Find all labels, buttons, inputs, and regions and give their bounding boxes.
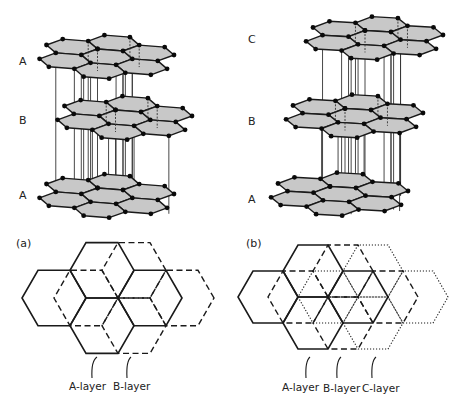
carbon-atom: [102, 172, 107, 177]
carbon-atom: [311, 190, 316, 195]
carbon-atom: [399, 202, 404, 207]
carbon-atom: [137, 43, 142, 48]
carbon-atom: [382, 43, 387, 48]
carbon-atom: [165, 205, 170, 210]
carbon-atom: [46, 203, 51, 208]
carbon-atom: [99, 135, 104, 140]
carbon-atom: [411, 103, 416, 108]
label-a-top-layer: A: [19, 56, 27, 67]
carbon-atom: [102, 33, 107, 38]
carbon-atom: [363, 193, 368, 198]
carbon-atom: [37, 56, 42, 61]
carbon-atom: [319, 126, 324, 131]
carbon-atom: [72, 205, 77, 210]
label-b-bottom-layer: A: [248, 194, 256, 205]
plan-a-layer: [22, 243, 182, 354]
diagram-canvas: [0, 0, 461, 410]
carbon-atom: [162, 184, 167, 189]
carbon-atom: [104, 100, 109, 105]
carbon-atom: [95, 47, 100, 52]
carbon-atom: [414, 124, 419, 129]
carbon-atom: [405, 23, 410, 28]
carbon-atom: [155, 198, 160, 203]
callout-leader: [337, 357, 341, 378]
carbon-atom: [336, 120, 341, 125]
carbon-atom: [79, 192, 84, 197]
carbon-atom: [354, 186, 359, 191]
carbon-atom: [431, 25, 436, 30]
callout-b-c-layer: C-layer: [362, 383, 399, 394]
carbon-atom: [46, 64, 51, 69]
graphene-layer-a-bottom: [269, 170, 411, 218]
callout-a-b-layer: B-layer: [113, 381, 150, 392]
carbon-atom: [128, 174, 133, 179]
carbon-atom: [123, 70, 128, 75]
carbon-atom: [146, 96, 151, 101]
carbon-atom: [389, 30, 394, 35]
carbon-atom: [333, 98, 338, 103]
carbon-atom: [125, 137, 130, 142]
carbon-atom: [60, 37, 65, 42]
carbon-atom: [79, 53, 84, 58]
panel-label-b: (b): [246, 238, 262, 249]
carbon-atom: [328, 184, 333, 189]
carbon-atom: [81, 213, 86, 218]
carbon-atom: [53, 51, 58, 56]
plan-b-layer: [268, 245, 418, 349]
carbon-atom: [329, 134, 334, 139]
figure-a-hexagonal-stacking-3d: [37, 33, 194, 220]
carbon-atom: [285, 189, 290, 194]
carbon-atom: [130, 196, 135, 201]
carbon-atom: [361, 172, 366, 177]
carbon-atom: [371, 129, 376, 134]
callout-leader: [92, 357, 97, 378]
carbon-atom: [165, 66, 170, 71]
carbon-atom: [269, 195, 274, 200]
carbon-atom: [304, 204, 309, 209]
carbon-atom: [148, 72, 153, 77]
carbon-atom: [55, 117, 60, 122]
graphene-layer-c-top: [304, 14, 446, 62]
carbon-atom: [88, 199, 93, 204]
carbon-atom: [375, 57, 380, 62]
figure-b-layer-overlay-plan: [238, 245, 448, 378]
carbon-atom: [349, 56, 354, 61]
figure-b-rhombohedral-stacking-3d: [269, 14, 446, 218]
carbon-atom: [107, 215, 112, 220]
carbon-atom: [421, 111, 426, 116]
carbon-atom: [141, 131, 146, 136]
graphene-layer-a-top: [37, 33, 176, 81]
carbon-atom: [346, 34, 351, 39]
carbon-atom: [369, 108, 374, 113]
carbon-atom: [86, 39, 91, 44]
label-a-bottom-layer: A: [19, 190, 27, 201]
carbon-atom: [292, 175, 297, 180]
carbon-atom: [278, 203, 283, 208]
carbon-atom: [81, 74, 86, 79]
carbon-atom: [307, 97, 312, 102]
callout-b-a-layer: A-layer: [282, 382, 319, 393]
carbon-atom: [340, 213, 345, 218]
carbon-atom: [155, 59, 160, 64]
carbon-atom: [396, 16, 401, 21]
graphene-layer-b-middle: [55, 94, 194, 142]
carbon-atom: [396, 181, 401, 186]
carbon-atom: [318, 176, 323, 181]
carbon-atom: [353, 20, 358, 25]
panel-label-a: (a): [16, 238, 31, 249]
callout-leader: [372, 357, 376, 378]
carbon-atom: [389, 195, 394, 200]
carbon-atom: [406, 189, 411, 194]
carbon-atom: [166, 133, 171, 138]
carbon-atom: [391, 51, 396, 56]
carbon-atom: [130, 57, 135, 62]
carbon-atom: [417, 53, 422, 58]
carbon-atom: [441, 33, 446, 38]
carbon-atom: [300, 111, 305, 116]
carbon-atom: [370, 14, 375, 19]
carbon-atom: [44, 43, 49, 48]
carbon-atom: [362, 121, 367, 126]
carbon-atom: [64, 125, 69, 130]
carbon-atom: [293, 125, 298, 130]
plan-a-layer: [238, 245, 388, 349]
